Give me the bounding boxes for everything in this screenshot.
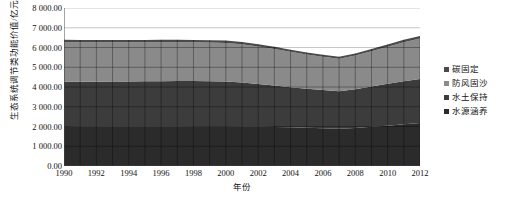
y-tick-label: 1 000.00	[12, 142, 62, 150]
y-tick-label: 5 000.00	[12, 63, 62, 71]
y-tick-label: 8 000.00	[12, 4, 62, 12]
plot-svg	[64, 8, 420, 166]
legend-item-label: 水土保持	[452, 90, 488, 104]
y-tick-label: 4 000.00	[12, 83, 62, 91]
y-tick-label: 7 000.00	[12, 24, 62, 32]
legend-item-label: 防风固沙	[452, 76, 488, 90]
x-tick-label: 2012	[400, 168, 440, 179]
legend-square-marker	[444, 109, 449, 114]
plot-area	[64, 8, 420, 166]
legend-item-label: 碳固定	[452, 62, 479, 76]
chart-legend: 碳固定防风固沙水土保持水源涵养	[444, 62, 508, 118]
legend-item[interactable]: 碳固定	[444, 62, 508, 76]
y-tick-label: 3 000.00	[12, 103, 62, 111]
legend-item-label: 水源涵养	[452, 104, 488, 118]
legend-item[interactable]: 水源涵养	[444, 104, 508, 118]
legend-square-marker	[444, 95, 449, 100]
legend-square-marker	[444, 67, 449, 72]
y-tick-label: 6 000.00	[12, 44, 62, 52]
y-tick-label: 2 000.00	[12, 123, 62, 131]
legend-item[interactable]: 防风固沙	[444, 76, 508, 90]
y-axis-tick-labels: 0.001 000.002 000.003 000.004 000.005 00…	[12, 8, 62, 166]
legend-square-marker	[444, 81, 449, 86]
x-axis-tick-labels: 1990199219941996199820002002200420062008…	[64, 168, 420, 180]
stacked-area-chart: 生态系统调节类功能价值/亿元 0.001 000.002 000.003 000…	[0, 0, 508, 200]
x-axis-title: 年份	[64, 180, 420, 192]
legend-item[interactable]: 水土保持	[444, 90, 508, 104]
